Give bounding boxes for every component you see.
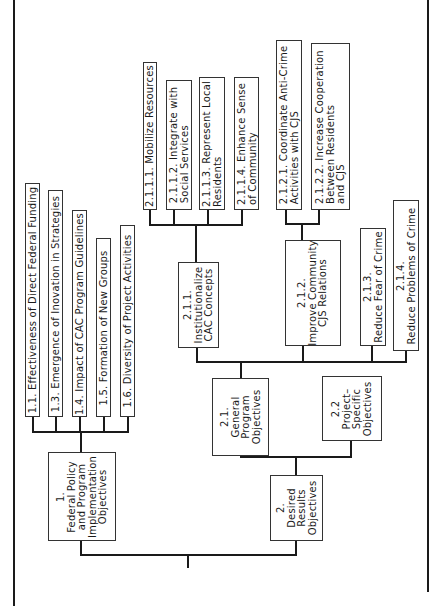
node-label-line: 2.2	[331, 381, 342, 436]
node-label-line: General	[230, 390, 241, 445]
node-2.1.2-label: 2.1.2.Improve CommunityCJS Relations	[297, 240, 329, 346]
node-label-line: Residents	[212, 81, 223, 207]
node-2.1.3-label: 2.1.3.Reduce Fear of Crime	[363, 231, 384, 343]
connector-2.1.2.1	[285, 210, 287, 224]
node-2.1.1.3: 2.1.1.3. Represent LocalResidents	[199, 77, 225, 210]
node-1.1-label: 1.1. Effectiveness of Direct Federal Fun…	[27, 187, 38, 414]
node-label-line: 2.1.1.3. Represent Local	[202, 81, 213, 207]
node-label-line: Results	[297, 481, 308, 536]
connector-2.1.3	[371, 345, 373, 362]
node-label-line: 2.1.	[220, 390, 231, 445]
connector-2.1-up	[240, 362, 242, 378]
node-label-line: and CJS	[336, 50, 347, 204]
node-label-line: 2.1.2.1. Coordinate Anti-Crime	[279, 46, 290, 205]
connector-2.1.2	[302, 345, 304, 362]
node-label-line: 2.1.1.4. Enhance Sense	[236, 82, 247, 204]
node-2.1.1.4: 2.1.1.4. Enhance Senseof Community	[234, 77, 259, 210]
node-2.1.1: 2.1.1.InstitutionalizeCAC Concepts	[178, 262, 219, 348]
node-2.1.1.4-label: 2.1.1.4. Enhance Senseof Community	[236, 82, 257, 204]
node-1.5: 1.5. Formation of New Groups	[96, 238, 111, 417]
node-2.1.2.2-label: 2.1.2.2. Increase CooperationBetween Res…	[315, 50, 347, 204]
node-label-line: 2.1.4.	[396, 207, 407, 344]
connector-2.1.4	[405, 350, 407, 362]
node-label-line: CJS Relations	[318, 240, 329, 346]
connector-2.1.1-up	[195, 225, 197, 262]
node-label-line: Objectives	[98, 455, 109, 537]
node-1-label: 1.Federal Policyand ProgramImplementatio…	[56, 455, 109, 537]
node-label-line: Objectives	[363, 381, 374, 436]
node-1.6: 1.6. Diversity of Project Activities	[120, 225, 135, 417]
node-2.1.1.1-label: 2.1.1.1. Mobilize Resources	[145, 65, 156, 207]
node-2.1.1.2-label: 2.1.1.2. Integrate withSocial Services	[169, 87, 190, 203]
node-2.1.4: 2.1.4.Reduce Problems of Crime	[393, 200, 419, 351]
node-1.6-label: 1.6. Diversity of Project Activities	[122, 235, 133, 408]
connector-1.6	[127, 417, 129, 432]
node-2.1.1.1: 2.1.1.1. Mobilize Resources	[143, 62, 157, 210]
node-label-line: 1.6. Diversity of Project Activities	[122, 235, 133, 408]
node-label-line: 2.1.1.2. Integrate with	[169, 87, 180, 203]
node-2.1-label: 2.1.GeneralProgramObjectives	[220, 390, 262, 445]
connector-root-stem	[187, 554, 189, 568]
node-2.1.3: 2.1.3.Reduce Fear of Crime	[360, 228, 386, 346]
node-label-line: Between Residents	[325, 50, 336, 204]
node-label-line: CAC Concepts	[204, 267, 215, 344]
node-label-line: 2.1.2.2. Increase Cooperation	[315, 50, 326, 204]
node-label-line: Objectives	[307, 481, 318, 536]
node-label-line: 2.1.1.	[183, 267, 194, 344]
node-label-line: 1.	[56, 455, 67, 537]
page-border-left	[13, 0, 15, 606]
connector-2.1.1.2	[173, 210, 175, 225]
connector-2.1.1-bar	[149, 224, 243, 226]
node-label-line: 2.1.3.	[363, 231, 374, 343]
connector-2.1.1.3	[207, 210, 209, 225]
node-1.3: 1.3. Emergence of Inovation in Strategie…	[48, 190, 63, 417]
connector-2.2	[350, 440, 352, 457]
node-label-line: 2.1.2.	[297, 240, 308, 346]
node-2.1.2: 2.1.2.Improve CommunityCJS Relations	[285, 240, 341, 346]
node-2.1.2.1-label: 2.1.2.1. Coordinate Anti-CrimeActivities…	[279, 46, 300, 205]
connector-2.1.2-bar	[285, 223, 320, 225]
connector-2-bar	[240, 456, 352, 458]
node-label-line: Activities with CJS	[289, 46, 300, 205]
node-1.1: 1.1. Effectiveness of Direct Federal Fun…	[25, 183, 40, 417]
connector-2.1.1	[196, 347, 198, 362]
node-2.1: 2.1.GeneralProgramObjectives	[212, 378, 269, 456]
node-label-line: Desired	[286, 481, 297, 536]
connector-1.3	[55, 417, 57, 432]
connector-2.1.2-up	[301, 224, 303, 240]
connector-2.1.1.1	[149, 210, 151, 225]
node-label-line: 2.1.1.1. Mobilize Resources	[145, 65, 156, 207]
node-label-line: 2.	[276, 481, 287, 536]
connector-2-up	[295, 457, 297, 475]
node-2.1.2.2: 2.1.2.2. Increase CooperationBetween Res…	[311, 43, 350, 210]
connector-2.1.2.2	[318, 210, 320, 224]
node-label-line: Specific	[352, 381, 363, 436]
node-label-line: Objectives	[251, 390, 262, 445]
node-2.2: 2.2Project–SpecificObjectives	[322, 376, 382, 441]
connector-1-up	[80, 432, 82, 452]
node-2.1.2.1: 2.1.2.1. Coordinate Anti-CrimeActivities…	[276, 40, 302, 210]
node-label-line: Institutionalize	[193, 267, 204, 344]
node-label-line: and Program	[77, 455, 88, 537]
node-label-line: Social Services	[179, 87, 190, 203]
connector-2.1.1.4	[241, 210, 243, 225]
node-label-line: Reduce Problems of Crime	[406, 207, 417, 344]
connector-root-bar	[80, 554, 297, 556]
node-1.4: 1.4. Impact of CAC Program Guidelines	[72, 210, 87, 417]
node-2-desired-results: 2.DesiredResultsObjectives	[270, 475, 323, 541]
connector-1.1	[32, 417, 34, 432]
node-2-label: 2.DesiredResultsObjectives	[276, 481, 318, 536]
node-2.1.1.3-label: 2.1.1.3. Represent LocalResidents	[202, 81, 223, 207]
node-label-line: of Community	[247, 82, 258, 204]
node-2.1.1.2: 2.1.1.2. Integrate withSocial Services	[166, 80, 192, 210]
node-label-line: 1.3. Emergence of Inovation in Strategie…	[50, 195, 61, 411]
node-label-line: 1.5. Formation of New Groups	[98, 250, 109, 405]
node-label-line: 1.1. Effectiveness of Direct Federal Fun…	[27, 187, 38, 414]
connector-1.4	[79, 417, 81, 432]
node-2.1.1-label: 2.1.1.InstitutionalizeCAC Concepts	[183, 267, 215, 344]
node-2.1.4-label: 2.1.4.Reduce Problems of Crime	[396, 207, 417, 344]
node-label-line: Reduce Fear of Crime	[373, 231, 384, 343]
connector-2-stem	[295, 540, 297, 555]
node-label-line: 1.4. Impact of CAC Program Guidelines	[74, 212, 85, 414]
node-1.3-label: 1.3. Emergence of Inovation in Strategie…	[50, 195, 61, 411]
